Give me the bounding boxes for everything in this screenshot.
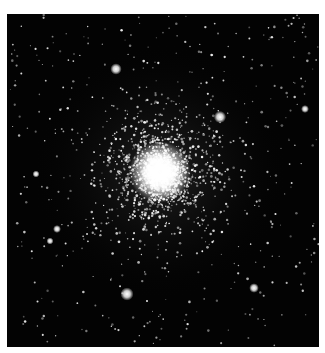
star-cluster-image <box>7 14 319 347</box>
star-field <box>7 14 319 347</box>
